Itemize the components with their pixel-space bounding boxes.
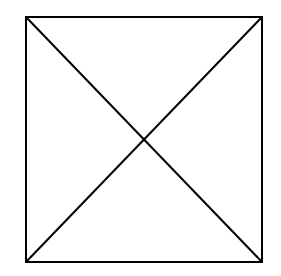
square-with-diagonals-diagram: [0, 0, 281, 276]
